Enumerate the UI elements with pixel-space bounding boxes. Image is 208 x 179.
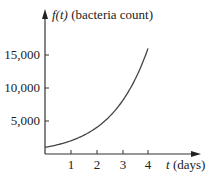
y-axis-arrow-icon [42, 9, 48, 19]
x-tick-label: 4 [145, 157, 152, 172]
y-axis-label: f(t) (bacteria count) [52, 7, 153, 22]
x-axis-label: t (days) [166, 157, 205, 172]
chart: 5,000 10,000 15,000 1 2 3 4 f(t) (bacter… [0, 0, 208, 179]
y-tick-label: 15,000 [4, 47, 40, 62]
data-curve [45, 48, 148, 147]
x-tick-label: 2 [94, 157, 101, 172]
x-tick-label: 3 [120, 157, 127, 172]
y-tick-label: 5,000 [11, 113, 40, 128]
x-tick-label: 1 [68, 157, 75, 172]
y-tick-label: 10,000 [4, 80, 40, 95]
